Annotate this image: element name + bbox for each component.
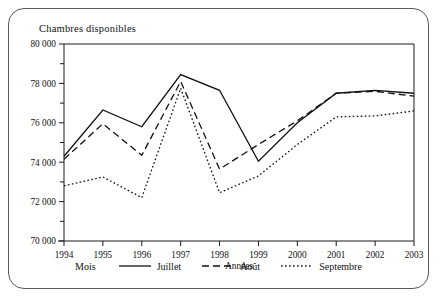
- chart-figure: Chambres disponibles 70 00072 00074 0007…: [8, 8, 429, 289]
- axes: [58, 44, 414, 246]
- legend-swatch-septembre: [280, 261, 314, 271]
- legend-label-juillet: Juillet: [157, 261, 181, 272]
- tick-labels: 70 00072 00074 00076 00078 00080 0001994…: [30, 39, 423, 271]
- legend-label-septembre: Septembre: [319, 261, 362, 272]
- legend-swatch-juillet: [118, 261, 152, 271]
- chart-legend: Mois Juillet Août Septembre: [9, 258, 428, 274]
- y-tick-label: 70 000: [30, 236, 56, 246]
- series-line-septembre: [64, 88, 414, 197]
- plot-area: 70 00072 00074 00076 00078 00080 0001994…: [9, 9, 430, 290]
- legend-entry-aout: Août: [201, 261, 260, 272]
- series-line-juillet: [64, 75, 414, 162]
- y-tick-label: 72 000: [30, 197, 56, 207]
- y-tick-label: 76 000: [30, 118, 56, 128]
- y-tick-label: 74 000: [30, 158, 56, 168]
- data-series: [64, 75, 414, 198]
- legend-title: Mois: [75, 261, 96, 272]
- legend-entry-juillet: Juillet: [118, 261, 181, 272]
- legend-label-aout: Août: [240, 261, 260, 272]
- legend-swatch-aout: [201, 261, 235, 271]
- legend-entry-septembre: Septembre: [280, 261, 362, 272]
- y-tick-label: 80 000: [30, 39, 56, 49]
- y-tick-label: 78 000: [30, 79, 56, 89]
